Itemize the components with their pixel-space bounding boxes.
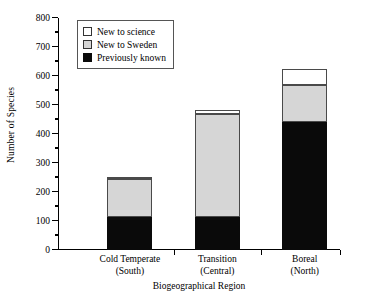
chart-root: Number of Species 0100200300400500600700… — [0, 0, 376, 299]
x-category-label-line1: Transition — [198, 254, 237, 264]
y-tick-minor — [55, 205, 59, 206]
legend-label: Previously known — [97, 53, 166, 63]
bar-segment-known[interactable] — [107, 217, 152, 250]
legend-item-science[interactable]: New to science — [83, 25, 166, 38]
legend-label: New to science — [97, 27, 155, 37]
y-tick-label: 200 — [20, 187, 50, 197]
y-tick-label: 800 — [20, 13, 50, 23]
y-tick-minor — [55, 31, 59, 32]
x-category-label-line2: (North) — [235, 266, 375, 278]
y-tick-major — [52, 17, 58, 18]
legend-swatch-known — [83, 53, 92, 62]
y-axis-title: Number of Species — [4, 0, 18, 250]
legend-swatch-science — [83, 27, 92, 36]
y-tick-label: 0 — [20, 245, 50, 255]
x-category-label-line1: Boreal — [292, 254, 317, 264]
legend-item-sweden[interactable]: New to Sweden — [83, 38, 166, 51]
legend-swatch-sweden — [83, 40, 92, 49]
y-tick-major — [52, 46, 58, 47]
y-tick-minor — [55, 60, 59, 61]
bar-1[interactable] — [195, 110, 240, 250]
y-tick-minor — [55, 147, 59, 148]
y-axis-line — [58, 18, 59, 250]
x-category-label-2: Boreal(North) — [235, 254, 375, 277]
bar-segment-sweden[interactable] — [282, 85, 327, 122]
chart-legend: New to scienceNew to SwedenPreviously kn… — [77, 20, 174, 69]
y-tick-label: 700 — [20, 42, 50, 52]
bar-segment-known[interactable] — [195, 217, 240, 250]
bar-segment-sweden[interactable] — [107, 179, 152, 217]
y-tick-major — [52, 191, 58, 192]
y-axis-tick-labels: 0100200300400500600700800 — [18, 18, 50, 250]
y-tick-label: 500 — [20, 100, 50, 110]
legend-label: New to Sweden — [97, 40, 157, 50]
y-tick-label: 600 — [20, 71, 50, 81]
x-axis-title: Biogeographical Region — [58, 281, 340, 291]
y-tick-major — [52, 133, 58, 134]
y-tick-major — [52, 249, 58, 250]
y-tick-major — [52, 162, 58, 163]
y-tick-label: 300 — [20, 158, 50, 168]
bar-2[interactable] — [282, 69, 327, 250]
y-tick-minor — [55, 234, 59, 235]
y-tick-label: 100 — [20, 216, 50, 226]
y-tick-major — [52, 220, 58, 221]
y-tick-major — [52, 75, 58, 76]
y-tick-minor — [55, 176, 59, 177]
y-axis-title-text: Number of Species — [6, 87, 16, 163]
bar-segment-sweden[interactable] — [195, 114, 240, 217]
bar-segment-science[interactable] — [282, 69, 327, 85]
legend-item-known[interactable]: Previously known — [83, 51, 166, 64]
y-tick-minor — [55, 118, 59, 119]
y-tick-major — [52, 104, 58, 105]
y-tick-label: 400 — [20, 129, 50, 139]
y-tick-minor — [55, 89, 59, 90]
bar-segment-known[interactable] — [282, 122, 327, 250]
bar-0[interactable] — [107, 177, 152, 250]
